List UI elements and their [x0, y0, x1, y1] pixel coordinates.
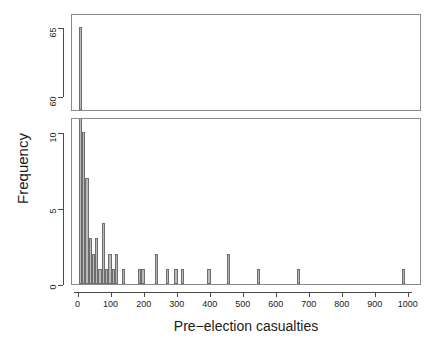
- histogram-bar: [181, 269, 184, 284]
- histogram-bar: [297, 269, 300, 284]
- x-axis-title: Pre−election casualties: [71, 318, 421, 334]
- x-axis-tick: [144, 292, 145, 297]
- histogram-bar: [155, 254, 158, 284]
- upper-y-axis-tick: [58, 97, 63, 98]
- x-axis-tick: [78, 292, 79, 297]
- lower-y-axis-line: [63, 133, 64, 285]
- lower-y-axis-tick-label: 10: [49, 133, 58, 157]
- histogram-bar: [166, 269, 169, 284]
- x-axis-tick: [408, 292, 409, 297]
- histogram-bar: [227, 254, 230, 284]
- upper-y-axis-tick-label: 60: [49, 97, 58, 121]
- upper-y-axis-tick-label: 65: [49, 27, 58, 51]
- lower-y-axis-tick-label: 5: [49, 209, 58, 233]
- lower-y-axis-tick: [58, 133, 63, 134]
- x-axis-tick: [276, 292, 277, 297]
- x-axis-tick-label: 1000: [388, 300, 428, 309]
- upper-y-axis-tick: [58, 28, 63, 29]
- upper-panel: [71, 14, 421, 111]
- x-axis-tick: [309, 292, 310, 297]
- x-axis-tick: [111, 292, 112, 297]
- histogram-bar: [174, 269, 177, 284]
- histogram-bar: [257, 269, 260, 284]
- histogram-bar: [122, 269, 125, 284]
- x-axis-tick: [375, 292, 376, 297]
- histogram-bar: [402, 269, 405, 284]
- histogram-bar: [207, 269, 210, 284]
- histogram-bar: [115, 254, 118, 284]
- x-axis-tick: [210, 292, 211, 297]
- histogram-bar: [141, 269, 144, 284]
- upper-y-axis-line: [63, 28, 64, 97]
- lower-y-axis-tick: [58, 209, 63, 210]
- lower-y-axis-tick-label: 0: [49, 285, 58, 309]
- x-axis-tick: [243, 292, 244, 297]
- x-axis-tick: [342, 292, 343, 297]
- x-axis-tick: [177, 292, 178, 297]
- histogram-figure: 0100200300400500600700800900100060650510…: [0, 0, 443, 348]
- y-axis-title: Frequency: [14, 109, 31, 229]
- lower-y-axis-tick: [58, 285, 63, 286]
- histogram-bar: [79, 27, 82, 110]
- y-axis-title-wrap: Frequency: [10, 110, 34, 230]
- lower-panel-bars: [72, 119, 420, 284]
- upper-panel-bars: [72, 15, 420, 110]
- lower-panel: [71, 118, 421, 285]
